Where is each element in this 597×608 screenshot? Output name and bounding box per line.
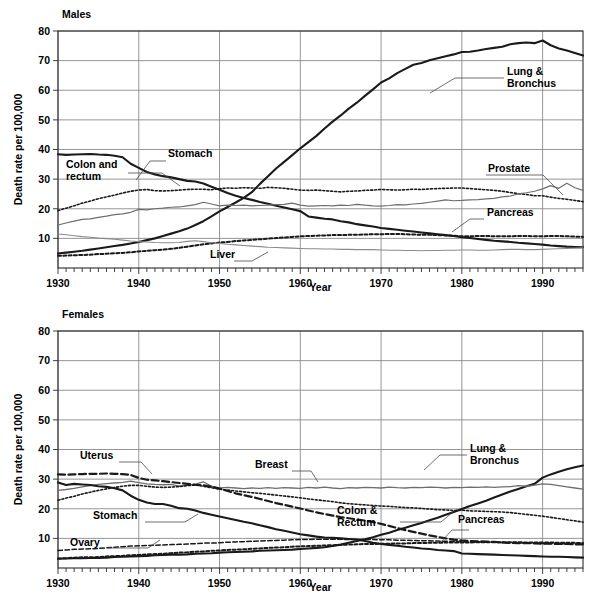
x-tick-label: 1980 <box>450 277 474 289</box>
y-tick-label: 30 <box>38 173 50 185</box>
series-line-pancreas <box>58 234 583 256</box>
y-tick-label: 70 <box>38 54 50 66</box>
y-tick-label: 20 <box>38 203 50 215</box>
series-label-lung-bronchus: Lung &Bronchus <box>470 442 519 466</box>
leader-stomach-males <box>136 161 166 180</box>
y-axis-title: Death rate per 100,000 <box>12 394 24 506</box>
y-tick-label: 80 <box>38 25 50 37</box>
x-tick-label: 1930 <box>46 277 70 289</box>
x-minor-ticks <box>58 268 583 274</box>
females-chart-panel: Females102030405060708019301940195019601… <box>0 300 597 608</box>
x-tick-label: 1980 <box>450 577 474 589</box>
leader-breast-females <box>292 471 318 482</box>
series-label-lung-bronchus: Lung &Bronchus <box>507 65 556 89</box>
x-tick-label: 1950 <box>208 277 232 289</box>
leader-pancreas-males <box>452 219 484 232</box>
y-ticks <box>53 331 58 538</box>
y-ticks <box>53 31 58 238</box>
leader-stomach-females <box>145 514 198 522</box>
series-label-colon-rectum: Colon &Rectum <box>337 504 378 528</box>
x-tick-label: 1970 <box>369 277 393 289</box>
x-tick-label: 1990 <box>531 577 555 589</box>
x-tick-label: 1940 <box>127 277 151 289</box>
series-label-pancreas: Pancreas <box>458 513 505 525</box>
series-line-lung-bronchus <box>58 40 583 253</box>
series-label-uterus: Uterus <box>80 449 113 461</box>
y-tick-label: 50 <box>38 114 50 126</box>
x-tick-label: 1950 <box>208 577 232 589</box>
males-chart-panel: Males10203040506070801930194019501960197… <box>0 0 597 300</box>
series-label-colon-and-rectum: Colon andrectum <box>66 158 117 182</box>
y-tick-label: 60 <box>38 84 50 96</box>
leader-prostate-males <box>486 175 563 195</box>
x-axis-title: Year <box>309 281 331 293</box>
x-tick-label: 1940 <box>127 577 151 589</box>
y-tick-label: 50 <box>38 414 50 426</box>
x-tick-labels: 1930194019501960197019801990 <box>46 277 554 289</box>
y-tick-label: 30 <box>38 473 50 485</box>
leader-lung-females <box>424 455 467 470</box>
x-axis-title: Year <box>309 581 331 593</box>
series-label-stomach: Stomach <box>93 509 137 521</box>
series-label-breast: Breast <box>255 458 288 470</box>
grid-group <box>58 31 583 268</box>
panel-title-females: Females <box>62 308 104 320</box>
x-tick-label: 1990 <box>531 277 555 289</box>
leader-liver-males <box>234 252 268 261</box>
y-tick-label: 10 <box>38 532 50 544</box>
males-chart-svg: Males10203040506070801930194019501960197… <box>0 0 597 300</box>
leader-lung-males <box>430 78 504 93</box>
y-tick-label: 20 <box>38 503 50 515</box>
series-label-ovary: Ovary <box>70 536 100 548</box>
series-label-pancreas: Pancreas <box>487 206 534 218</box>
panel-title-males: Males <box>62 8 91 20</box>
y-tick-labels: 1020304050607080 <box>38 25 50 244</box>
y-tick-labels: 1020304050607080 <box>38 325 50 544</box>
series-annotations: Lung &BronchusStomachColon andrectumPros… <box>66 65 556 260</box>
y-tick-label: 10 <box>38 232 50 244</box>
series-label-liver: Liver <box>210 248 235 260</box>
x-minor-ticks <box>58 568 583 574</box>
x-tick-labels: 1930194019501960197019801990 <box>46 577 554 589</box>
series-label-prostate: Prostate <box>488 162 530 174</box>
y-tick-label: 40 <box>38 143 50 155</box>
leader-uterus-females <box>119 462 152 474</box>
y-tick-label: 70 <box>38 354 50 366</box>
y-axis-title: Death rate per 100,000 <box>12 94 24 206</box>
x-tick-label: 1930 <box>46 577 70 589</box>
x-tick-label: 1970 <box>369 577 393 589</box>
y-tick-label: 40 <box>38 443 50 455</box>
series-group <box>58 40 583 255</box>
y-tick-label: 60 <box>38 384 50 396</box>
females-chart-svg: Females102030405060708019301940195019601… <box>0 300 597 608</box>
series-label-stomach: Stomach <box>168 147 212 159</box>
y-tick-label: 80 <box>38 325 50 337</box>
